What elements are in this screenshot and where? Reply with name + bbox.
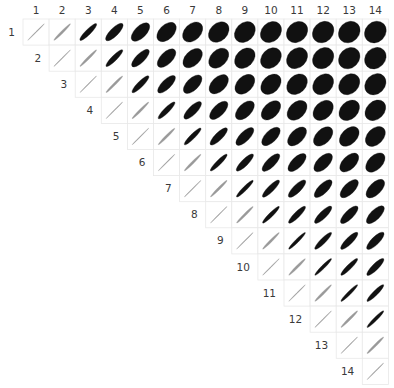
cell-5-12 <box>310 123 337 150</box>
cell-7-12 <box>310 176 336 202</box>
cell-9-12 <box>310 228 336 254</box>
cell-9-13 <box>336 228 362 254</box>
cell-1-1 <box>23 19 49 45</box>
cell-3-11 <box>283 70 312 99</box>
cell-1-7 <box>179 18 207 46</box>
cell-1-6 <box>153 19 180 46</box>
cell-11-13 <box>336 280 362 306</box>
cell-5-6 <box>154 123 180 149</box>
column-label-6: 6 <box>163 4 170 16</box>
cell-3-3 <box>75 71 101 97</box>
cell-7-11 <box>284 176 310 202</box>
cell-5-14 <box>362 123 390 151</box>
cell-3-7 <box>180 71 206 97</box>
cell-8-13 <box>336 202 362 228</box>
cell-6-14 <box>362 149 388 175</box>
cell-1-14 <box>360 17 391 48</box>
cell-5-11 <box>284 123 310 149</box>
cell-6-11 <box>284 150 310 176</box>
column-label-9: 9 <box>242 4 249 16</box>
cell-2-13 <box>334 43 364 73</box>
row-label-14: 14 <box>341 365 355 377</box>
cell-7-13 <box>336 176 362 202</box>
cell-1-13 <box>334 17 364 47</box>
cell-8-14 <box>362 202 388 228</box>
cell-12-13 <box>336 306 362 332</box>
cell-13-13 <box>336 332 362 358</box>
row-label-3: 3 <box>61 78 68 90</box>
cell-8-10 <box>258 202 284 228</box>
cell-4-7 <box>180 97 206 123</box>
cell-5-9 <box>232 123 258 149</box>
column-label-5: 5 <box>137 4 144 16</box>
cell-4-8 <box>206 97 232 123</box>
row-label-7: 7 <box>165 182 172 194</box>
cell-3-5 <box>127 71 153 97</box>
row-label-1: 1 <box>8 26 15 38</box>
cell-4-14 <box>361 96 390 125</box>
column-label-1: 1 <box>33 4 40 16</box>
cell-4-13 <box>335 96 364 125</box>
cell-5-10 <box>258 123 284 149</box>
cell-6-8 <box>206 150 232 176</box>
column-label-2: 2 <box>59 4 66 16</box>
column-label-14: 14 <box>369 4 383 16</box>
cell-9-10 <box>258 228 284 254</box>
row-label-13: 13 <box>315 339 328 351</box>
column-label-4: 4 <box>111 4 118 16</box>
row-label-6: 6 <box>139 156 146 168</box>
cell-4-5 <box>127 97 153 123</box>
cell-11-14 <box>362 280 388 306</box>
cell-4-11 <box>283 97 311 125</box>
row-label-12: 12 <box>289 313 302 325</box>
cell-10-14 <box>362 254 388 280</box>
row-label-8: 8 <box>191 208 198 220</box>
cell-7-8 <box>206 176 232 202</box>
cell-5-5 <box>127 123 153 149</box>
cell-3-10 <box>257 70 285 98</box>
cell-14-14 <box>362 358 388 384</box>
cell-1-11 <box>282 17 312 47</box>
cell-2-5 <box>127 45 153 71</box>
cell-1-12 <box>308 17 338 47</box>
column-label-12: 12 <box>316 4 329 16</box>
cell-2-12 <box>308 43 338 73</box>
cell-5-7 <box>180 123 206 149</box>
cell-6-9 <box>232 150 258 176</box>
cell-10-12 <box>310 254 336 280</box>
row-label-4: 4 <box>87 104 94 116</box>
cell-4-9 <box>232 97 258 123</box>
cell-10-11 <box>284 254 310 280</box>
column-label-8: 8 <box>215 4 222 16</box>
column-label-7: 7 <box>189 4 196 16</box>
row-label-5: 5 <box>113 130 120 142</box>
cell-9-11 <box>284 228 310 254</box>
cell-1-2 <box>49 19 75 45</box>
cell-8-11 <box>284 202 310 228</box>
cell-4-6 <box>154 97 180 123</box>
cell-6-6 <box>154 150 180 176</box>
cell-1-9 <box>230 17 259 46</box>
cell-2-9 <box>231 44 260 73</box>
cell-1-3 <box>75 19 101 45</box>
row-label-2: 2 <box>34 52 41 64</box>
cell-11-12 <box>310 280 336 306</box>
cell-2-4 <box>101 45 127 71</box>
cell-6-12 <box>310 150 336 176</box>
column-label-13: 13 <box>343 4 356 16</box>
cell-3-9 <box>231 71 258 98</box>
cell-4-4 <box>101 97 127 123</box>
cell-9-9 <box>232 228 258 254</box>
cell-9-14 <box>362 228 388 254</box>
row-label-11: 11 <box>263 287 276 299</box>
cell-7-10 <box>258 176 284 202</box>
cell-6-13 <box>336 150 362 176</box>
row-label-9: 9 <box>217 234 224 246</box>
cell-2-14 <box>360 43 390 73</box>
cell-2-7 <box>179 45 206 72</box>
cell-3-8 <box>206 71 232 97</box>
cell-1-4 <box>101 19 127 45</box>
cell-2-11 <box>282 43 312 73</box>
cell-11-11 <box>284 280 310 306</box>
column-label-10: 10 <box>264 4 277 16</box>
